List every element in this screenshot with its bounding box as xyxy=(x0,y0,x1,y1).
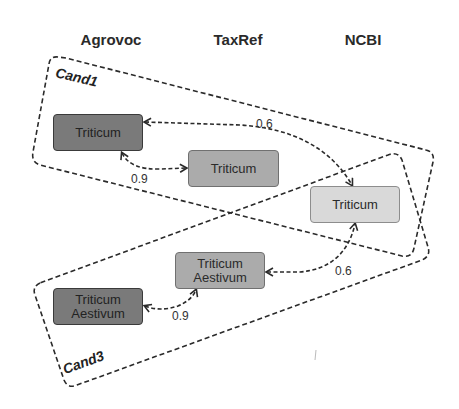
node-agrovoc-triticum-aestivum: Triticum Aestivum xyxy=(53,288,143,325)
node-label-line2: Aestivum xyxy=(71,307,124,321)
node-label-line2: Aestivum xyxy=(193,271,246,285)
node-ncbi-triticum: Triticum xyxy=(310,186,400,223)
edge-score-agrovoc-ncbi-triticum: 0.6 xyxy=(256,117,273,131)
edge-score-taxref-aestivum-ncbi-triticum: 0.6 xyxy=(335,264,352,278)
node-label-line1: Triticum xyxy=(75,293,121,307)
node-label-line1: Triticum xyxy=(197,257,243,271)
node-taxref-triticum: Triticum xyxy=(188,150,279,187)
node-agrovoc-triticum: Triticum xyxy=(53,114,143,151)
node-label: Triticum xyxy=(332,198,378,212)
edge-agrovoc-taxref-triticum xyxy=(122,153,186,169)
node-taxref-triticum-aestivum: Triticum Aestivum xyxy=(175,252,265,289)
edge-agrovoc-taxref-aestivum xyxy=(145,290,196,309)
edge-score-agrovoc-taxref-triticum: 0.9 xyxy=(131,172,148,186)
node-label: Triticum xyxy=(211,162,257,176)
scan-artifact-mark xyxy=(315,350,316,360)
node-label: Triticum xyxy=(75,126,121,140)
edge-score-agrovoc-taxref-aestivum: 0.9 xyxy=(172,309,189,323)
